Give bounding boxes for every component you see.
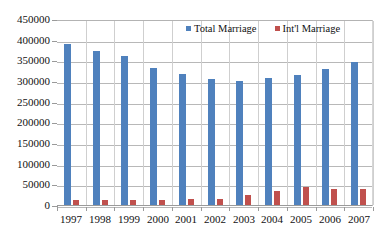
y-axis-label: 350000 — [0, 55, 50, 66]
bar-intl-marriage — [130, 200, 136, 205]
bar-intl-marriage — [73, 200, 79, 205]
category-separator — [172, 21, 173, 205]
bar-total-marriage — [351, 62, 358, 205]
plot-area — [57, 20, 373, 206]
y-axis-label: 150000 — [0, 138, 50, 149]
bar-total-marriage — [265, 78, 272, 205]
bar-total-marriage — [294, 75, 301, 205]
bar-total-marriage — [179, 74, 186, 205]
legend-item-total-marriage[interactable]: Total Marriage — [186, 23, 257, 34]
bar-intl-marriage — [303, 187, 309, 205]
bar-total-marriage — [93, 51, 100, 205]
y-axis-label: 0 — [0, 200, 50, 211]
category-separator — [201, 21, 202, 205]
bar-total-marriage — [121, 56, 128, 205]
bar-intl-marriage — [217, 199, 223, 205]
legend-item-intl-marriage[interactable]: Int'l Marriage — [275, 23, 341, 34]
y-axis-label: 300000 — [0, 76, 50, 87]
bar-total-marriage — [208, 79, 215, 205]
category-separator — [86, 21, 87, 205]
x-axis-tick — [287, 207, 288, 211]
y-axis-label: 250000 — [0, 97, 50, 108]
category-separator — [114, 21, 115, 205]
y-axis-label: 50000 — [0, 179, 50, 190]
category-separator — [287, 21, 288, 205]
bar-intl-marriage — [360, 189, 366, 205]
gridline — [57, 207, 372, 208]
bar-intl-marriage — [102, 200, 108, 205]
category-separator — [143, 21, 144, 205]
category-separator — [229, 21, 230, 205]
legend-swatch-intl-marriage — [275, 26, 280, 31]
x-axis-tick — [86, 207, 87, 211]
x-axis-tick — [316, 207, 317, 211]
x-axis-tick — [172, 207, 173, 211]
y-axis-label: 100000 — [0, 159, 50, 170]
bar-chart: 0500001000001500002000002500003000003500… — [0, 0, 381, 238]
x-axis-tick — [258, 207, 259, 211]
x-axis-tick — [229, 207, 230, 211]
chart-legend: Total Marriage Int'l Marriage — [186, 23, 340, 34]
legend-label-intl-marriage: Int'l Marriage — [283, 23, 341, 34]
bar-intl-marriage — [188, 199, 194, 205]
bar-intl-marriage — [245, 195, 251, 205]
legend-swatch-total-marriage — [186, 26, 191, 31]
y-axis-label: 450000 — [0, 14, 50, 25]
gridline — [57, 42, 372, 43]
x-axis-tick — [201, 207, 202, 211]
bar-total-marriage — [150, 68, 157, 205]
bar-total-marriage — [64, 44, 71, 205]
category-separator — [258, 21, 259, 205]
y-axis-label: 200000 — [0, 117, 50, 128]
gridline — [57, 62, 372, 63]
x-axis-label: 2007 — [339, 213, 379, 225]
x-axis-tick — [114, 207, 115, 211]
x-axis-tick — [344, 207, 345, 211]
legend-label-total-marriage: Total Marriage — [194, 23, 257, 34]
y-axis-label: 400000 — [0, 35, 50, 46]
category-separator — [344, 21, 345, 205]
bar-intl-marriage — [331, 189, 337, 205]
x-axis-tick — [143, 207, 144, 211]
bar-total-marriage — [322, 69, 329, 205]
category-separator — [316, 21, 317, 205]
bar-intl-marriage — [159, 200, 165, 205]
x-axis-tick — [57, 207, 58, 211]
category-separator — [373, 21, 374, 205]
x-axis-tick — [373, 207, 374, 211]
bar-intl-marriage — [274, 191, 280, 205]
bar-total-marriage — [236, 81, 243, 205]
